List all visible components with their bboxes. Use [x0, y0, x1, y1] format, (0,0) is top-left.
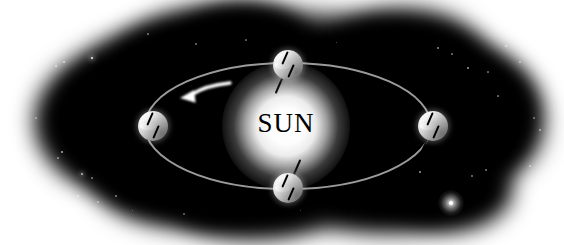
- orbital-direction-arrow: [180, 83, 230, 103]
- astronomy-diagram-figure: SUN: [0, 0, 564, 245]
- sun-label: SUN: [222, 108, 350, 138]
